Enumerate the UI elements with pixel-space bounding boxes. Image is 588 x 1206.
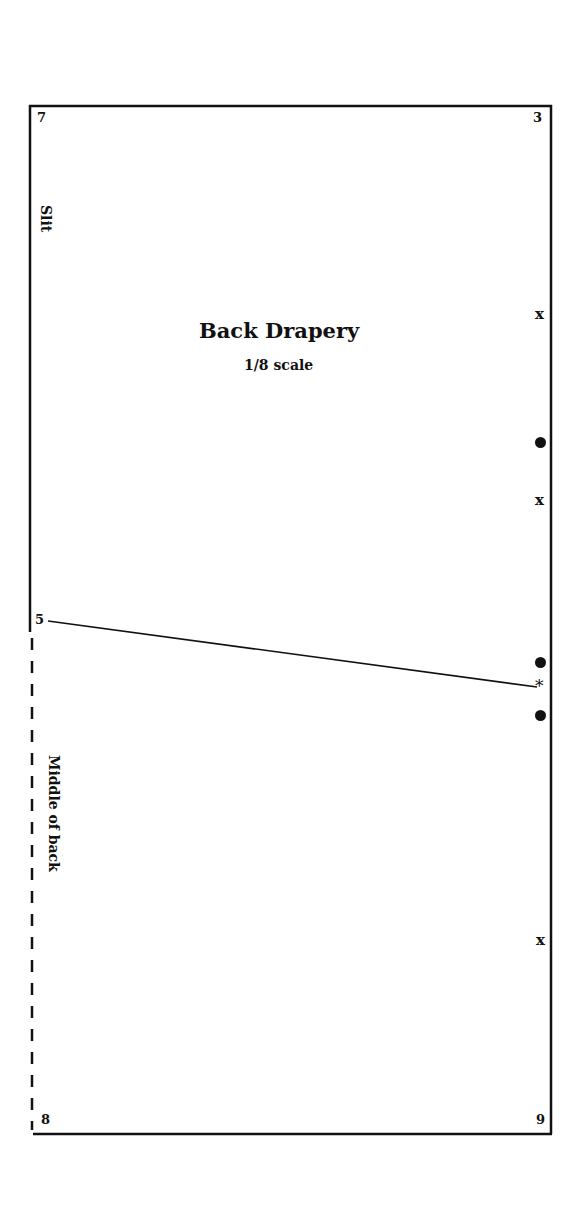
corner-label-top-left: 7: [37, 110, 46, 125]
corner-label-top-right: 3: [533, 110, 542, 125]
x-marker: x: [535, 491, 544, 509]
x-marker: x: [535, 305, 544, 323]
pattern-outline: [0, 0, 588, 1206]
corner-label-left-mid: 5: [35, 612, 44, 627]
middle-of-back-label: Middle of back: [46, 755, 62, 872]
dot-marker: [535, 710, 546, 721]
dot-marker: [535, 657, 546, 668]
corner-label-bottom-right: 9: [536, 1112, 545, 1127]
pattern-scale: 1/8 scale: [244, 357, 313, 373]
pattern-title: Back Drapery: [199, 318, 359, 343]
asterisk-marker: *: [535, 676, 544, 696]
dot-marker: [535, 437, 546, 448]
corner-label-bottom-left: 8: [41, 1112, 50, 1127]
x-marker: x: [536, 931, 545, 949]
slit-label: Slit: [38, 205, 54, 232]
